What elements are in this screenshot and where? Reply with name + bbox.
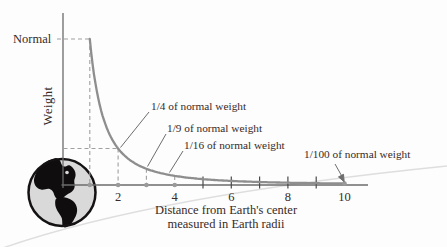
x-tick-label: 6 — [228, 190, 234, 204]
leader-arrowhead — [339, 174, 345, 182]
earth-icon — [29, 158, 96, 228]
leader-line — [148, 134, 167, 167]
annotation-hundredth-weight: 1/100 of normal weight — [304, 148, 410, 160]
leader-line — [121, 112, 150, 148]
x-axis-caption-line-2: measured in Earth radii — [118, 218, 334, 232]
x-axis-caption-line-1: Distance from Earth's center — [118, 204, 334, 218]
x-axis-caption: Distance from Earth's center measured in… — [118, 204, 334, 231]
axis-dot — [88, 183, 93, 188]
axis-dot — [116, 183, 121, 188]
x-tick-label: 4 — [172, 190, 179, 204]
annotation-sixteenth-weight: 1/16 of normal weight — [184, 139, 285, 151]
axis-dot — [144, 183, 149, 188]
tick-labels: 246810 — [115, 190, 351, 204]
axis-dot — [172, 183, 177, 188]
earth-lake-spot — [65, 171, 69, 175]
annotation-quarter-weight: 1/4 of normal weight — [151, 100, 246, 112]
annotation-ninth-weight: 1/9 of normal weight — [167, 122, 262, 134]
weight-axis-label: Weight — [41, 87, 56, 126]
figure-canvas: 246810 Normal Weight 1/4 of normal weigh… — [0, 0, 447, 247]
x-tick-label: 8 — [285, 190, 291, 204]
leader-line — [170, 151, 184, 173]
x-tick-label: 10 — [338, 190, 351, 204]
normal-weight-label: Normal — [13, 32, 51, 47]
x-tick-label: 2 — [115, 190, 121, 204]
